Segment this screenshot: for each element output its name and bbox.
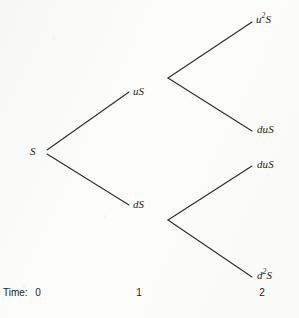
tree-node-label-root: S <box>30 146 36 157</box>
tree-edge-up1-to-ud <box>168 78 252 131</box>
tree-node-label-ud: duS <box>257 124 274 135</box>
tree-edge-up1-to-uu <box>168 22 252 78</box>
time-axis-caption: Time: <box>3 287 28 298</box>
tree-edge-root-to-up1 <box>47 92 129 150</box>
tree-node-label-up1: uS <box>133 86 144 97</box>
tree-node-label-uu: u2S <box>256 14 271 25</box>
time-axis-tick-1: 1 <box>136 287 142 298</box>
tree-edge-root-to-down1 <box>47 154 129 205</box>
tree-edge-down1-to-du <box>168 166 252 220</box>
time-axis-tick-0: 0 <box>35 287 41 298</box>
tree-edges-canvas <box>0 0 299 318</box>
time-axis: Time: 0 1 2 <box>0 287 299 307</box>
tree-node-label-down1: dS <box>133 199 144 210</box>
binomial-tree-figure: SuSdSu2SduSduSd2S Time: 0 1 2 <box>0 0 299 318</box>
time-axis-tick-2: 2 <box>259 287 265 298</box>
tree-edge-down1-to-dd <box>168 220 252 277</box>
tree-node-label-du: duS <box>257 159 274 170</box>
tree-node-label-dd: d2S <box>257 270 272 281</box>
